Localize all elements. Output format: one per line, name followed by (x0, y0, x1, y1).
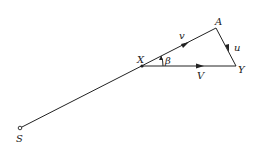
arrow-u-icon (225, 44, 229, 52)
label-v-small: v (179, 30, 185, 41)
arrow-v-icon (181, 42, 189, 48)
label-y: Y (238, 64, 246, 75)
label-u: u (234, 42, 240, 53)
label-a: A (214, 16, 222, 27)
diagram-svg: S X A Y v u V β (0, 0, 259, 145)
label-V-large: V (197, 70, 206, 81)
arrow-V-icon (196, 64, 204, 69)
point-s (18, 126, 22, 130)
label-beta: β (164, 55, 171, 66)
vector-diagram: S X A Y v u V β (0, 0, 259, 145)
line-a-y (216, 28, 236, 66)
label-x: X (136, 54, 145, 65)
label-s: S (16, 133, 23, 144)
